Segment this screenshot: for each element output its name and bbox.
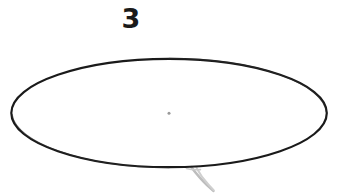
ellipse-outline-texture-bottom-left — [12, 115, 169, 168]
center-dot — [168, 112, 171, 115]
figure-label: 3 — [0, 4, 262, 34]
figure-canvas: 3 — [0, 0, 337, 196]
tail-stroke-inner — [197, 168, 214, 191]
tail-stroke-group — [187, 167, 214, 191]
